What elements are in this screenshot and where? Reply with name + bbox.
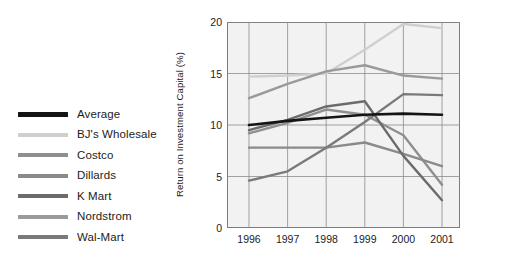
y-axis-title: Return on Investment Capital (%): [171, 24, 189, 224]
y-tick-label: 10: [198, 119, 222, 131]
chart-container: Return on Investment Capital (%) 0510152…: [0, 0, 518, 263]
y-axis-title-text: Return on Investment Capital (%): [175, 51, 186, 196]
y-tick-label: 5: [198, 171, 222, 183]
plot-lines: [227, 22, 460, 228]
chart-screenshot: AverageBJ's WholesaleCostcoDillardsK Mar…: [0, 0, 518, 263]
y-tick-label: 15: [198, 68, 222, 80]
y-tick-label: 0: [198, 222, 222, 234]
x-tick-label: 2001: [419, 233, 465, 245]
y-tick-label: 20: [198, 16, 222, 28]
y-axis-ticks: 05101520: [192, 0, 222, 263]
